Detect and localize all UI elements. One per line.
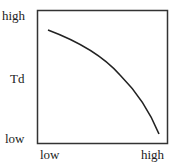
x-tick-low: low xyxy=(40,148,60,162)
y-tick-high: high xyxy=(2,9,25,23)
y-tick-low: low xyxy=(5,132,25,146)
plot-frame xyxy=(38,11,168,144)
td-curve xyxy=(48,30,159,134)
y-axis-label: Td xyxy=(10,72,24,86)
chart-plot xyxy=(0,0,173,168)
x-tick-high: high xyxy=(141,148,164,162)
